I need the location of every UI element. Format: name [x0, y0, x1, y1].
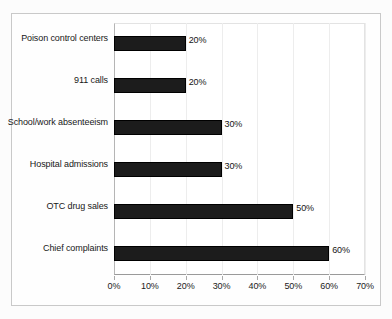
x-tick-label: 50% [273, 281, 313, 291]
x-tick-mark [114, 276, 115, 280]
bar [114, 162, 222, 177]
bar [114, 36, 186, 51]
bar-row: 30% [114, 107, 365, 149]
category-label: Chief complaints [3, 243, 108, 254]
bar [114, 120, 222, 135]
bar-row: 50% [114, 191, 365, 233]
bar [114, 204, 293, 219]
x-tick-mark [186, 276, 187, 280]
bar-row: 30% [114, 149, 365, 191]
bar-value-label: 30% [225, 119, 243, 129]
x-tick-label: 30% [202, 281, 242, 291]
x-tick-mark [257, 276, 258, 280]
bar-value-label: 50% [296, 203, 314, 213]
x-tick-label: 70% [345, 281, 385, 291]
x-tick-label: 0% [94, 281, 134, 291]
bar-row: 60% [114, 233, 365, 275]
x-tick-label: 20% [166, 281, 206, 291]
bar-value-label: 20% [189, 77, 207, 87]
x-tick-mark [329, 276, 330, 280]
bar-row: 20% [114, 23, 365, 65]
x-tick-label: 40% [237, 281, 277, 291]
category-label: Hospital admissions [3, 159, 108, 170]
chart-figure: 0%10%20%30%40%50%60%70% 20%20%30%30%50%6… [11, 13, 381, 306]
x-tick-mark [150, 276, 151, 280]
x-tick-mark [293, 276, 294, 280]
bar-value-label: 20% [189, 35, 207, 45]
category-label: School/work absenteeism [3, 117, 108, 128]
x-tick-mark [222, 276, 223, 280]
x-tick-mark [365, 276, 366, 280]
bar-value-label: 30% [225, 161, 243, 171]
gridline [365, 23, 366, 275]
category-label: OTC drug sales [3, 201, 108, 212]
bar [114, 78, 186, 93]
x-tick-label: 10% [130, 281, 170, 291]
category-label: Poison control centers [3, 33, 108, 44]
bar-value-label: 60% [332, 245, 350, 255]
bar [114, 246, 329, 261]
category-label: 911 calls [3, 75, 108, 86]
x-tick-label: 60% [309, 281, 349, 291]
bar-row: 20% [114, 65, 365, 107]
